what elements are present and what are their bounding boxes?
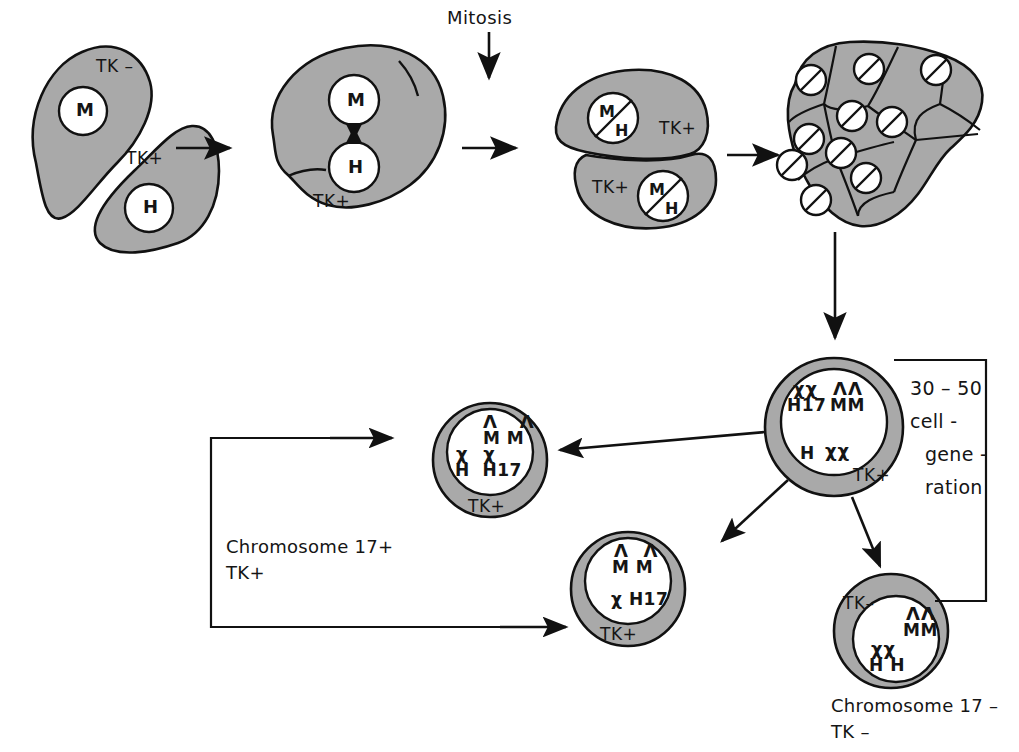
label-seg-mid-tk: TK+ [600, 625, 637, 643]
label-generation-line4: ration [925, 477, 983, 498]
label-generation-line3: gene - [925, 444, 987, 465]
colony-nucleus [796, 65, 826, 95]
label-hybrid-tk: TK+ [853, 466, 890, 484]
caption-left-line1: Chromosome 17+ [226, 537, 393, 556]
label-daughter-lower-tk: TK+ [592, 178, 629, 196]
label-hybrid-h: H [800, 444, 815, 462]
caption-left-line2: TK+ [226, 563, 265, 582]
label-daughter-lower-M: M [649, 181, 665, 198]
label-seg-bottom-hh: H H [869, 656, 905, 674]
label-seg-bottom-mm: MM [903, 621, 938, 639]
label-generation-line2: cell - [910, 411, 957, 432]
colony-nucleus [777, 150, 807, 180]
label-seg-bottom-tk: TK– [843, 594, 875, 612]
colony-nucleus [921, 55, 951, 85]
label-seg-top-hh17: H H17 [455, 461, 522, 479]
colony-nucleus [851, 163, 881, 193]
arrow-hybrid-to-mid [722, 480, 788, 541]
label-heterokaryon-nucleus-H: H [348, 157, 363, 176]
colony-nucleus [826, 138, 856, 168]
label-mitosis: Mitosis [447, 8, 512, 27]
label-hybrid-h17: H17 [787, 396, 826, 414]
label-generation-line1: 30 – 50 [910, 378, 982, 399]
label-nucleus-H: H [143, 197, 158, 216]
caption-right-line1: Chromosome 17 – [831, 696, 998, 715]
label-daughter-upper-H: H [615, 122, 628, 139]
label-daughter-upper-tk: TK+ [659, 119, 696, 137]
label-hybrid-sym-xx: χχ [825, 441, 850, 460]
label-daughter-lower-H: H [665, 200, 678, 217]
label-seg-top-tk: TK+ [468, 497, 505, 515]
diagram-canvas: TK – M TK+ H Mitosis M H TK+ M H TK+ M H… [0, 0, 1019, 752]
label-nucleus-M: M [76, 100, 94, 119]
colony-nucleus [854, 54, 884, 84]
label-heterokaryon-nucleus-M: M [347, 90, 365, 109]
label-seg-mid-mm: M M [612, 558, 653, 576]
label-seg-mid-xh17: χ H17 [611, 590, 668, 608]
label-hybrid-mm: MM [830, 396, 865, 414]
label-parental-tk-negative: TK – [96, 57, 133, 75]
label-heterokaryon-tk: TK+ [313, 192, 350, 210]
colony-nucleus [837, 101, 867, 131]
hybrid-colony [777, 42, 982, 227]
colony-nucleus [801, 185, 831, 215]
label-parental-tk-positive: TK+ [126, 149, 163, 167]
arrow-hybrid-to-top [560, 432, 765, 450]
colony-nucleus [877, 107, 907, 137]
arrow-hybrid-to-bottom [852, 497, 880, 566]
colony-nucleus [794, 124, 824, 154]
label-daughter-upper-M: M [599, 103, 615, 120]
diagram-vector-layer [0, 0, 1019, 752]
caption-right-line2: TK – [831, 722, 870, 741]
